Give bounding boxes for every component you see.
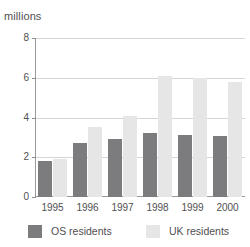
bar-group — [213, 38, 242, 197]
y-tick-label: 4 — [23, 113, 29, 123]
legend-swatch — [146, 225, 160, 238]
bar — [108, 139, 122, 197]
bar — [178, 135, 192, 197]
x-tick-label: 1995 — [41, 203, 63, 213]
y-tick-label: 8 — [23, 33, 29, 43]
plot-area: 02468 199519961997199819992000 — [35, 38, 245, 197]
y-tick-mark — [32, 157, 36, 158]
bar — [213, 136, 227, 197]
x-tick-label: 1997 — [111, 203, 133, 213]
x-tick-label: 1998 — [146, 203, 168, 213]
bar — [123, 116, 137, 197]
chart-legend: OS residentsUK residents — [28, 222, 243, 242]
y-tick-label: 0 — [23, 192, 29, 202]
bar — [53, 159, 67, 197]
x-tick-label: 1996 — [76, 203, 98, 213]
bar — [193, 78, 207, 197]
axis-unit-label: millions — [4, 10, 41, 22]
bar-chart: millions 02468 199519961997199819992000 … — [0, 0, 250, 247]
bar-group — [178, 38, 207, 197]
bar — [228, 82, 242, 197]
bar-group — [108, 38, 137, 197]
x-tick-label: 2000 — [216, 203, 238, 213]
bar-group — [38, 38, 67, 197]
bar — [158, 76, 172, 197]
bar — [38, 161, 52, 197]
legend-label: UK residents — [169, 226, 229, 237]
bar — [143, 133, 157, 197]
x-tick-label: 1999 — [181, 203, 203, 213]
legend-entry: UK residents — [146, 222, 229, 240]
y-tick-label: 6 — [23, 73, 29, 83]
bar-group — [143, 38, 172, 197]
bar-group — [73, 38, 102, 197]
y-tick-label: 2 — [23, 152, 29, 162]
y-tick-mark — [32, 38, 36, 39]
bar — [73, 143, 87, 197]
y-tick-mark — [32, 197, 36, 198]
y-tick-mark — [32, 118, 36, 119]
legend-entry: OS residents — [28, 222, 112, 240]
bar — [88, 127, 102, 197]
legend-swatch — [28, 225, 42, 238]
legend-label: OS residents — [51, 226, 112, 237]
y-tick-mark — [32, 78, 36, 79]
